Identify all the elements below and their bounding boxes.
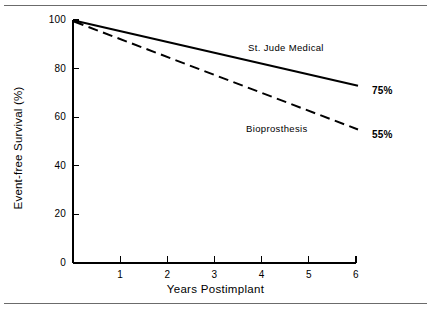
series-label-st-jude-medical: St. Jude Medical [248, 42, 324, 53]
y-tick-label-100: 100 [30, 14, 66, 25]
y-tick-label-20: 20 [30, 208, 66, 219]
endpoint-label-st-jude-medical: 75% [372, 85, 393, 96]
y-tick-label-60: 60 [30, 111, 66, 122]
x-tick-label-1: 1 [106, 269, 134, 280]
figure-frame: 100 80 60 40 20 0 1 2 3 4 5 6 Event-free… [0, 0, 431, 317]
x-tick-label-6: 6 [342, 269, 370, 280]
y-axis-title: Event-free Survival (%) [12, 48, 24, 248]
chart-plot-area: 100 80 60 40 20 0 1 2 3 4 5 6 Event-free… [0, 0, 431, 300]
caption-text-clipped [4, 307, 427, 316]
x-axis-title: Years Postimplant [73, 283, 358, 295]
endpoint-label-bioprosthesis: 55% [372, 129, 393, 140]
x-tick-label-4: 4 [248, 269, 276, 280]
bottom-divider-rule [4, 303, 427, 304]
y-tick-label-0: 0 [30, 257, 66, 268]
x-tick-label-2: 2 [153, 269, 181, 280]
x-tick-label-3: 3 [201, 269, 229, 280]
series-line-st-jude-medical [74, 21, 358, 86]
series-label-bioprosthesis: Bioprosthesis [246, 123, 308, 134]
x-tick-label-5: 5 [295, 269, 323, 280]
y-tick-label-40: 40 [30, 160, 66, 171]
y-tick-label-80: 80 [30, 63, 66, 74]
chart-canvas [0, 0, 431, 300]
